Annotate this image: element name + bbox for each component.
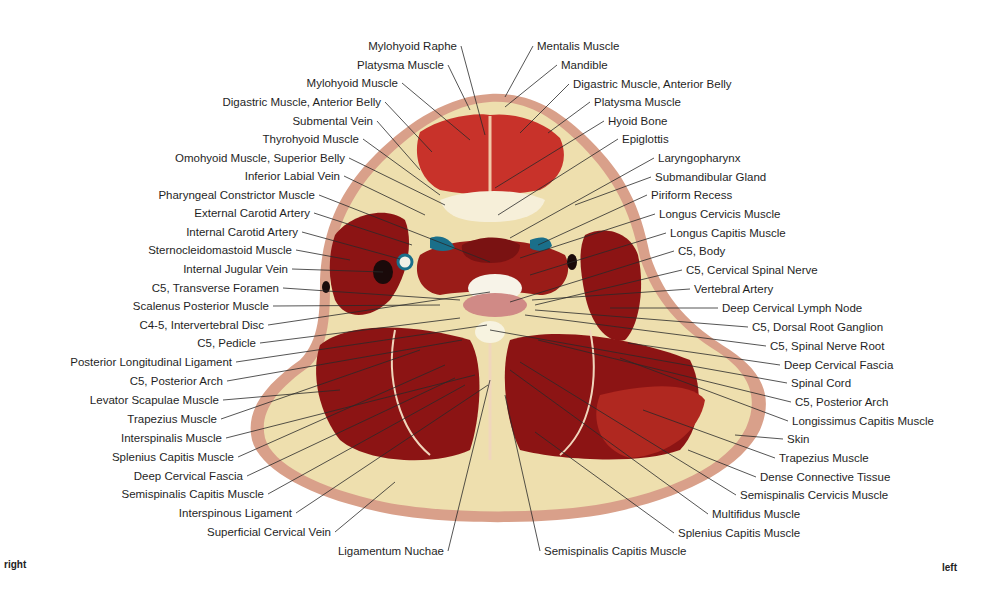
anatomy-figure: Mylohyoid Raphe Platysma Muscle Mylohyoi… [0,0,991,597]
label-c5-posterior-arch-r: C5, Posterior Arch [130,374,223,388]
label-longus-cervicis: Longus Cervicis Muscle [659,207,780,221]
label-longissimus-capitis: Longissimus Capitis Muscle [792,414,934,428]
label-posterior-longitudinal-ligament: Posterior Longitudinal Ligament [70,355,232,369]
label-external-carotid-artery: External Carotid Artery [194,206,310,220]
label-platysma-muscle: Platysma Muscle [357,58,444,72]
label-mandible: Mandible [561,58,608,72]
label-pharyngeal-constrictor: Pharyngeal Constrictor Muscle [158,188,315,202]
label-scalenus-posterior: Scalenus Posterior Muscle [133,299,269,313]
internal-carotid-artery [398,255,412,269]
label-c5-transverse-foramen: C5, Transverse Foramen [152,281,279,295]
label-deep-cervical-fascia-r: Deep Cervical Fascia [134,469,243,483]
label-hyoid-bone: Hyoid Bone [608,114,667,128]
label-c5-spinal-nerve-root: C5, Spinal Nerve Root [770,339,884,353]
label-submandibular-gland: Submandibular Gland [655,170,766,184]
label-digastric-anterior-belly: Digastric Muscle, Anterior Belly [223,95,382,109]
label-semispinalis-capitis-l: Semispinalis Capitis Muscle [544,544,687,558]
label-internal-carotid-artery: Internal Carotid Artery [186,225,298,239]
label-trapezius-r: Trapezius Muscle [127,412,217,426]
posterior-muscles-right [316,328,479,461]
label-interspinous-ligament: Interspinous Ligament [179,506,292,520]
label-multifidus: Multifidus Muscle [712,507,800,521]
label-thyrohyoid-muscle: Thyrohyoid Muscle [262,132,359,146]
label-c5-posterior-arch-l: C5, Posterior Arch [795,395,888,409]
label-piriform-recess: Piriform Recess [651,188,732,202]
label-internal-jugular-vein: Internal Jugular Vein [183,262,288,276]
label-mylohyoid-muscle: Mylohyoid Muscle [307,76,398,90]
label-deep-cervical-fascia-l: Deep Cervical Fascia [784,358,893,372]
label-c4-5-disc: C4-5, Intervertebral Disc [139,318,264,332]
label-c5-dorsal-root-ganglion: C5, Dorsal Root Ganglion [752,320,883,334]
label-skin: Skin [787,432,809,446]
label-dense-connective-tissue: Dense Connective Tissue [760,470,890,484]
label-mentalis-muscle: Mentalis Muscle [537,39,619,53]
label-inferior-labial-vein: Inferior Labial Vein [245,169,340,183]
label-c5-pedicle: C5, Pedicle [197,336,256,350]
label-digastric-anterior-belly-l: Digastric Muscle, Anterior Belly [573,77,732,91]
label-platysma-muscle-l: Platysma Muscle [594,95,681,109]
label-c5-body: C5, Body [678,244,725,258]
label-mylohyoid-raphe: Mylohyoid Raphe [368,39,457,53]
label-spinal-cord: Spinal Cord [791,376,851,390]
label-splenius-capitis-l: Splenius Capitis Muscle [678,526,800,540]
label-semispinalis-cervicis: Semispinalis Cervicis Muscle [740,488,888,502]
label-laryngopharynx: Laryngopharynx [658,151,740,165]
label-sternocleidomastoid: Sternocleidomastoid Muscle [148,243,292,257]
label-c5-cervical-spinal-nerve: C5, Cervical Spinal Nerve [686,263,818,277]
label-epiglottis: Epiglottis [622,132,669,146]
label-superficial-cervical-vein: Superficial Cervical Vein [207,525,331,539]
c4-5-disc [463,293,527,317]
label-splenius-capitis-r: Splenius Capitis Muscle [112,450,234,464]
label-semispinalis-capitis-r: Semispinalis Capitis Muscle [121,487,264,501]
orientation-label-right: right [4,559,26,570]
label-submental-vein: Submental Vein [292,114,373,128]
label-longus-capitis: Longus Capitis Muscle [670,226,786,240]
label-ligamentum-nuchae: Ligamentum Nuchae [338,544,444,558]
label-trapezius-l: Trapezius Muscle [779,451,869,465]
label-deep-cervical-lymph-node: Deep Cervical Lymph Node [722,301,862,315]
orientation-label-left: left [942,562,957,573]
label-omohyoid-superior-belly: Omohyoid Muscle, Superior Belly [175,151,345,165]
label-levator-scapulae: Levator Scapulae Muscle [90,393,219,407]
label-vertebral-artery: Vertebral Artery [694,282,773,296]
label-interspinalis: Interspinalis Muscle [121,431,222,445]
